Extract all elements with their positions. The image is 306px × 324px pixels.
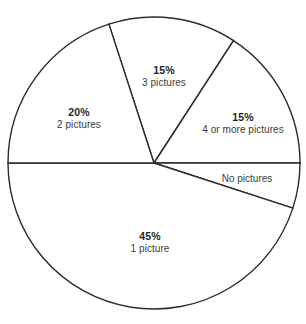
- pie-label-4-or-more-pictures: 15%4 or more pictures: [202, 111, 284, 137]
- slice-category-label: 1 picture: [131, 243, 170, 256]
- pie-label-3-pictures: 15%3 pictures: [142, 64, 186, 90]
- pie-label-2-pictures: 20%2 pictures: [57, 106, 101, 132]
- slice-percent-value: 20%: [57, 106, 101, 119]
- slice-percent-value: 15%: [202, 111, 284, 124]
- pie-chart-svg: [0, 0, 306, 324]
- slice-category-label: No pictures: [222, 173, 273, 186]
- slice-category-label: 3 pictures: [142, 77, 186, 90]
- slice-category-label: 4 or more pictures: [202, 124, 284, 137]
- slice-percent-value: 15%: [142, 64, 186, 77]
- pie-chart: 15%3 pictures15%4 or more picturesNo pic…: [0, 0, 306, 324]
- pie-label-1-picture: 45%1 picture: [131, 230, 170, 256]
- slice-percent-value: 45%: [131, 230, 170, 243]
- pie-slices-layer: [8, 17, 300, 309]
- pie-label-no-pictures: No pictures: [222, 173, 273, 186]
- slice-category-label: 2 pictures: [57, 119, 101, 132]
